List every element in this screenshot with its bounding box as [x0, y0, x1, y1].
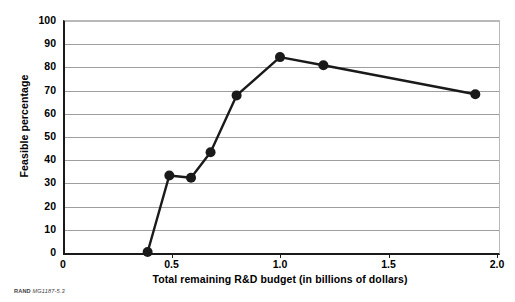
y-tick-label: 40	[22, 154, 56, 165]
y-tick-label: 0	[22, 247, 56, 258]
chart-figure: Feasible percentage 01020304050607080901…	[0, 0, 515, 302]
y-tick-label: 50	[22, 131, 56, 142]
plot-area	[63, 20, 500, 255]
gridline	[65, 44, 499, 45]
x-tick-label: 2.0	[475, 259, 515, 270]
y-tick-label: 20	[22, 201, 56, 212]
x-tick-label: 0.5	[150, 259, 194, 270]
y-tick-label: 70	[22, 85, 56, 96]
y-tick-label: 30	[22, 177, 56, 188]
y-tick-label: 60	[22, 108, 56, 119]
source-reference: MG1187-5.3	[32, 288, 64, 294]
gridline	[65, 91, 499, 92]
source-caption: RAND MG1187-5.3	[14, 288, 65, 294]
x-tick-label: 1.0	[258, 259, 302, 270]
gridline	[65, 21, 499, 22]
source-organization: RAND	[14, 288, 31, 294]
gridline	[65, 137, 499, 138]
gridline	[65, 207, 499, 208]
gridline	[65, 114, 499, 115]
gridline	[65, 230, 499, 231]
y-tick-label: 100	[22, 15, 56, 26]
y-tick-label: 80	[22, 61, 56, 72]
gridline	[65, 67, 499, 68]
y-tick-label: 90	[22, 38, 56, 49]
y-tick-label: 10	[22, 224, 56, 235]
gridline	[65, 183, 499, 184]
x-tick-label: 1.5	[367, 259, 411, 270]
x-axis-title: Total remaining R&D budget (in billions …	[63, 273, 497, 285]
gridline	[65, 160, 499, 161]
x-tick-label: 0	[41, 259, 85, 270]
